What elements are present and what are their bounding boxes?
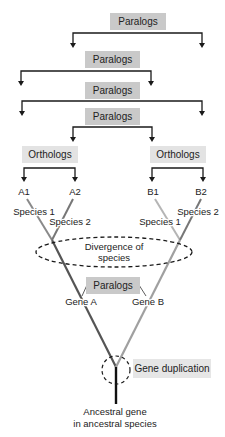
orthologs-label-left: Orthologs <box>28 149 71 160</box>
b-species1-label: Species 1 <box>139 216 181 227</box>
gene-duplication-label: Gene duplication <box>134 363 209 374</box>
b-species2-label: Species 2 <box>177 206 219 217</box>
arrow-down-icon <box>149 137 155 142</box>
paralogs-label-1: Paralogs <box>118 16 157 27</box>
gene-b-label: Gene B <box>132 296 164 307</box>
a-species2-label: Species 2 <box>49 216 91 227</box>
orthologs-paralogs-diagram: Paralogs Paralogs Paralogs Paralogs Orth… <box>0 0 225 437</box>
paralogs-bracket-4: Paralogs <box>70 108 155 142</box>
arrow-down-icon <box>19 111 25 116</box>
orthologs-bracket-left: Orthologs <box>21 146 78 182</box>
arrow-down-icon <box>199 111 205 116</box>
arrow-down-icon <box>18 81 24 86</box>
arrow-down-icon <box>70 43 76 48</box>
divergence-label-line1: Divergence of <box>85 241 144 252</box>
leaf-a2: A2 <box>69 186 81 197</box>
ancestral-label-line2: in ancestral species <box>73 418 157 429</box>
gene-paralogs-annotation: Paralogs <box>82 277 146 296</box>
arrow-down-icon <box>149 177 155 182</box>
orthologs-label-right: Orthologs <box>156 149 199 160</box>
paralogs-bracket-1: Paralogs <box>70 13 205 48</box>
gene-a-label: Gene A <box>65 296 97 307</box>
arrow-down-icon <box>21 177 27 182</box>
gene-paralogs-label: Paralogs <box>93 280 132 291</box>
orthologs-bracket-right: Orthologs <box>149 146 206 182</box>
paralogs-label-3: Paralogs <box>93 85 132 96</box>
leaf-b2: B2 <box>195 186 207 197</box>
paralogs-bracket-2: Paralogs <box>18 51 154 86</box>
paralogs-label-2: Paralogs <box>93 54 132 65</box>
leaf-a1: A1 <box>18 186 30 197</box>
arrow-down-icon <box>148 81 154 86</box>
arrow-down-icon <box>70 137 76 142</box>
arrow-down-icon <box>200 177 206 182</box>
paralogs-label-4: Paralogs <box>93 111 132 122</box>
divergence-label-line2: species <box>98 252 130 263</box>
ancestral-label-line1: Ancestral gene <box>83 406 146 417</box>
arrow-down-icon <box>72 177 78 182</box>
leaf-b1: B1 <box>147 186 159 197</box>
arrow-down-icon <box>199 43 205 48</box>
